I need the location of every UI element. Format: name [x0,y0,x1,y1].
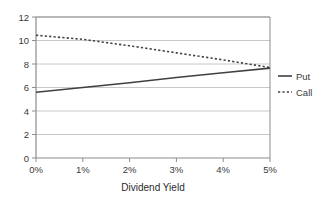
x-tick-label-4: 4% [216,164,230,175]
y-tick-label-12: 12 [18,12,29,23]
x-axis-title: Dividend Yield [121,182,184,193]
chart-background [0,0,326,200]
legend-label-put: Put [296,71,311,82]
x-tick-label-1: 1% [76,164,90,175]
y-tick-label-4: 4 [24,106,29,117]
x-tick-label-2: 2% [123,164,137,175]
x-tick-label-0: 0% [29,164,43,175]
line-chart: 12 10 8 6 4 2 0 0% 1% 2% 3% 4% 5% Divid [0,0,326,200]
y-tick-label-0: 0 [24,153,29,164]
legend-label-call: Call [296,87,312,98]
y-tick-label-6: 6 [24,82,29,93]
x-tick-label-5: 5% [263,164,277,175]
x-tick-label-3: 3% [170,164,184,175]
y-tick-label-2: 2 [24,129,29,140]
y-tick-label-8: 8 [24,59,29,70]
y-tick-label-10: 10 [18,35,29,46]
chart-container: 12 10 8 6 4 2 0 0% 1% 2% 3% 4% 5% Divid [0,0,326,200]
